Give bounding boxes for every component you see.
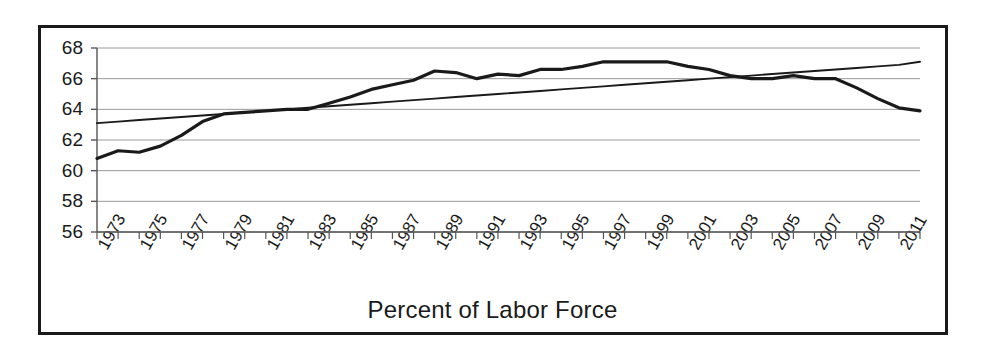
x-axis <box>97 232 920 239</box>
x-axis-title: Percent of Labor Force <box>0 296 985 324</box>
data-series-group <box>97 62 920 159</box>
chart-figure: 6866646260585619731975197719791981198319… <box>0 0 985 358</box>
data-line-trend <box>97 62 920 123</box>
data-line-participation <box>97 62 920 159</box>
y-axis <box>91 48 97 232</box>
